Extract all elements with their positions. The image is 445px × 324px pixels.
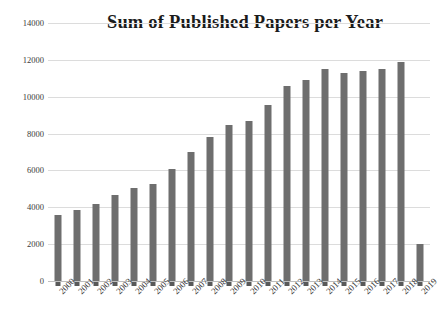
bar-slot — [392, 23, 411, 281]
bars-layer — [48, 23, 430, 281]
bar[interactable] — [264, 105, 271, 281]
y-axis-tick-label: 4000 — [4, 203, 44, 212]
bar[interactable] — [417, 244, 424, 281]
bar-slot — [354, 23, 373, 281]
bar-slot — [239, 23, 258, 281]
y-axis-tick-label: 12000 — [4, 56, 44, 65]
bar[interactable] — [111, 195, 118, 281]
bar-slot — [124, 23, 143, 281]
bar[interactable] — [130, 188, 137, 281]
bar-slot — [67, 23, 86, 281]
bar-slot — [277, 23, 296, 281]
bar[interactable] — [283, 86, 290, 281]
bar[interactable] — [54, 215, 61, 281]
y-axis-tick-label: 8000 — [4, 129, 44, 138]
bar[interactable] — [150, 184, 157, 281]
bar[interactable] — [73, 210, 80, 281]
bar[interactable] — [169, 169, 176, 281]
bar-slot — [411, 23, 430, 281]
bar[interactable] — [188, 152, 195, 281]
bar-slot — [163, 23, 182, 281]
bar[interactable] — [92, 204, 99, 281]
bar-slot — [105, 23, 124, 281]
bar[interactable] — [398, 62, 405, 281]
bar-slot — [315, 23, 334, 281]
y-axis-tick-label: 10000 — [4, 92, 44, 101]
bar-slot — [182, 23, 201, 281]
bar[interactable] — [379, 69, 386, 281]
bar-slot — [86, 23, 105, 281]
bar[interactable] — [207, 137, 214, 281]
bar-slot — [144, 23, 163, 281]
bar[interactable] — [321, 69, 328, 281]
bar[interactable] — [226, 125, 233, 281]
bar[interactable] — [341, 73, 348, 281]
bar-slot — [296, 23, 315, 281]
bar-slot — [201, 23, 220, 281]
y-axis-tick-label: 6000 — [4, 166, 44, 175]
bar-chart: Sum of Published Papers per Year 0200040… — [0, 0, 445, 324]
bar-slot — [373, 23, 392, 281]
bar-slot — [48, 23, 67, 281]
bar-slot — [258, 23, 277, 281]
bar[interactable] — [245, 121, 252, 281]
y-axis-tick-label: 0 — [4, 277, 44, 286]
bar-slot — [220, 23, 239, 281]
bar[interactable] — [302, 80, 309, 281]
y-axis-tick-label: 2000 — [4, 240, 44, 249]
bar[interactable] — [360, 71, 367, 281]
y-axis-tick-label: 14000 — [4, 19, 44, 28]
bar-slot — [335, 23, 354, 281]
